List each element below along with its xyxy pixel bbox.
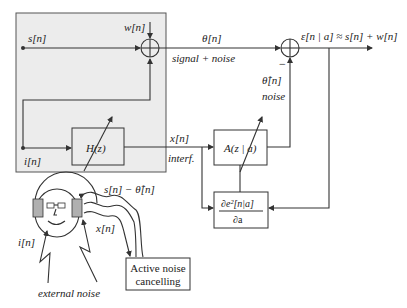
theta-hat-caption: noise xyxy=(262,90,285,102)
i-source-dot xyxy=(21,146,25,150)
external-noise-label: external noise xyxy=(38,287,100,299)
error-output-label: ε[n | a] ≈ s[n] + w[n] xyxy=(301,30,398,42)
head-signal-out-label: s[n] − θ̂[n] xyxy=(104,183,155,195)
right-noise-arrow xyxy=(80,220,97,282)
head-i-label: i[n] xyxy=(18,236,35,248)
a-output-line xyxy=(267,58,290,147)
head-x-label: x[n] xyxy=(95,222,115,234)
i-label: i[n] xyxy=(24,155,41,167)
x-caption: interf. xyxy=(168,152,195,164)
anc-diagram: s[n] w[n] θ[n] signal + noise ε[n | a] ≈… xyxy=(0,0,407,308)
x-label: x[n] xyxy=(169,132,189,144)
minus-sign: − xyxy=(279,57,286,71)
anc-label-line2: cancelling xyxy=(135,275,181,287)
w-label: w[n] xyxy=(124,21,145,33)
theta-hat-label: θ̂[n] xyxy=(262,74,281,86)
gradient-numerator: ∂e²[n|a] xyxy=(221,198,254,209)
gradient-denominator: ∂a xyxy=(233,214,243,225)
sum-junction-2 xyxy=(281,39,299,57)
sum-junction-1 xyxy=(141,39,159,57)
s-label: s[n] xyxy=(28,32,46,44)
theta-label: θ[n] xyxy=(202,32,221,44)
headphone-illustration xyxy=(33,172,97,237)
left-noise-arrow xyxy=(40,231,50,283)
error-feedback-line xyxy=(269,48,329,208)
left-earcup xyxy=(33,199,43,217)
theta-caption: signal + noise xyxy=(172,52,235,64)
right-earcup xyxy=(72,199,82,217)
anc-label-line1: Active noise xyxy=(130,262,185,274)
x-to-gradient-line xyxy=(202,147,213,208)
